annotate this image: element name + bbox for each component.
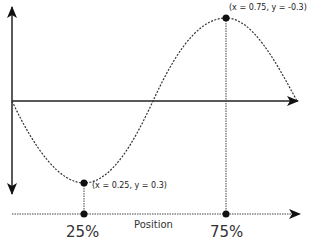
tick-point-75 (223, 211, 230, 218)
min-point (81, 180, 88, 187)
tick-point-25 (81, 211, 88, 218)
min-point-label: (x = 0.25, y = 0.3) (92, 181, 167, 190)
max-point (223, 15, 230, 22)
max-point-label: (x = 0.75, y = -0.3) (229, 3, 307, 12)
tick-label-25: 25% (66, 223, 99, 241)
position-axis-label: Position (134, 219, 173, 230)
sine-wave-diagram (0, 0, 317, 249)
tick-label-75: 75% (210, 223, 243, 241)
